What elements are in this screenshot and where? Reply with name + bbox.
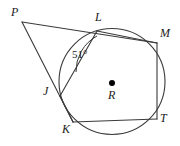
geometry-figure: PLMJKTR51° xyxy=(0,0,180,146)
point-label-K: K xyxy=(62,123,70,135)
angle-measure-label: 51° xyxy=(72,49,87,60)
point-label-L: L xyxy=(95,11,102,23)
geometry-canvas xyxy=(0,0,180,146)
point-label-P: P xyxy=(11,6,18,18)
point-label-T: T xyxy=(160,112,167,124)
point-label-J: J xyxy=(43,85,48,97)
segment-K-T xyxy=(73,119,157,122)
center-dot xyxy=(109,80,115,86)
center-label-R: R xyxy=(108,89,115,101)
point-label-M: M xyxy=(160,27,170,39)
segment-J-K xyxy=(60,96,73,122)
segment-L-M xyxy=(97,31,157,43)
segment-P-M xyxy=(22,22,157,43)
